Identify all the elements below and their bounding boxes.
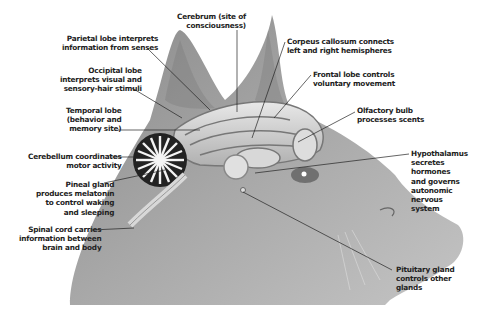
label-occipital-lobe: Occipital lobe interprets visual and sen… bbox=[60, 66, 142, 94]
label-pineal-gland: Pineal gland produces melatonin to contr… bbox=[36, 180, 114, 217]
label-corpus-callosum: Corpeus callosum connects left and right… bbox=[287, 37, 394, 55]
label-olfactory-bulb: Olfactory bulb processes scents bbox=[357, 106, 424, 124]
label-frontal-lobe: Frontal lobe controls voluntary movement bbox=[313, 70, 395, 88]
label-cerebellum: Cerebellum coordinates motor activity bbox=[28, 152, 122, 170]
label-spinal-cord: Spinal cord carries information between … bbox=[19, 225, 101, 253]
label-pituitary-gland: Pituitary gland controls other glands bbox=[396, 265, 454, 293]
label-temporal-lobe: Temporal lobe (behavior and memory site) bbox=[66, 106, 121, 134]
label-cerebrum: Cerebrum (site of consciousness) bbox=[177, 12, 246, 30]
label-parietal-lobe: Parietal lobe interprets information fro… bbox=[62, 34, 158, 52]
label-hypothalamus: Hypothalamus secretes hormones and gover… bbox=[411, 149, 468, 213]
